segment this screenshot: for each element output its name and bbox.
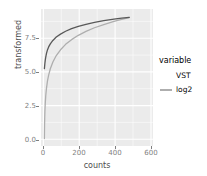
plot-svg bbox=[41, 9, 153, 146]
y-tick-label-7.5: 7.5 bbox=[10, 35, 36, 42]
grid-lines bbox=[41, 9, 153, 146]
y-tick-mark-7.5 bbox=[36, 38, 39, 39]
legend-key-vst-icon bbox=[159, 69, 173, 83]
x-tick-label-400: 400 bbox=[103, 150, 127, 157]
x-tick-label-200: 200 bbox=[67, 150, 91, 157]
legend-item-log2[interactable]: log2 bbox=[159, 83, 207, 97]
y-tick-mark-2.5 bbox=[36, 106, 39, 107]
series-lines bbox=[44, 17, 129, 138]
legend-key-log2-icon bbox=[159, 83, 173, 97]
chart-container: transformed 7.5 5.0 2.5 0.0 bbox=[0, 0, 207, 176]
line-vst bbox=[44, 17, 129, 68]
y-tick-mark-0.0 bbox=[36, 140, 39, 141]
y-tick-label-2.5: 2.5 bbox=[10, 103, 36, 110]
x-tick-label-0: 0 bbox=[31, 150, 55, 157]
legend-label-log2: log2 bbox=[176, 86, 192, 94]
line-log2 bbox=[44, 18, 129, 139]
legend-title: variable bbox=[159, 57, 207, 65]
legend: variable VST log2 bbox=[159, 57, 207, 97]
y-tick-label-0.0: 0.0 bbox=[10, 137, 36, 144]
legend-item-vst[interactable]: VST bbox=[159, 69, 207, 83]
x-axis-title: counts bbox=[41, 161, 153, 170]
y-tick-mark-5.0 bbox=[36, 72, 39, 73]
y-tick-label-5.0: 5.0 bbox=[10, 69, 36, 76]
plot-panel bbox=[41, 9, 153, 146]
legend-label-vst: VST bbox=[176, 72, 190, 80]
x-tick-label-600: 600 bbox=[139, 150, 163, 157]
